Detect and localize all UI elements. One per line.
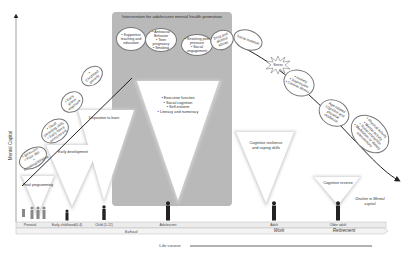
stage-adult: Adult <box>254 223 294 227</box>
x-axis-label: Life course <box>150 243 190 248</box>
y-axis-label: Mental Capital <box>8 118 13 174</box>
adult-figure-icon <box>270 201 278 221</box>
triangle-label-fetal: Fetal programming <box>22 183 54 188</box>
starburst-label: Stress <box>265 63 291 68</box>
triangle-label-early-dev: Early development <box>56 150 90 155</box>
timeline-retirement: Retirement <box>324 228 364 233</box>
child-figure-icon <box>101 205 107 221</box>
stage-early-childhood: Early childhood(0-4) <box>47 223 87 227</box>
prenatal-figures-icon <box>20 205 48 221</box>
toddler-figure-icon <box>64 209 70 221</box>
triangle-label-reserve: Cognitive reserve <box>320 181 356 186</box>
timeline-school: School <box>116 229 146 234</box>
stage-child: Child (5-12) <box>88 223 120 227</box>
timeline-work: Work <box>264 228 294 233</box>
stage-prenatal: Prenatal <box>15 223 45 227</box>
bubble-supportive-teaching: • Supportive teaching and education <box>116 27 146 51</box>
triangle-label-disposition: Disposition to learn <box>88 116 120 121</box>
decline-label: Decline in Mental capital <box>350 197 390 206</box>
adolescent-figure-icon <box>164 201 172 221</box>
bubble-peer-pressure: • Resisting peer pressure • Social engag… <box>181 34 213 56</box>
stage-adolescent: Adolescent <box>148 223 188 227</box>
stage-older-adult: Older adult <box>318 223 358 227</box>
older-adult-figure-icon <box>334 201 342 221</box>
promotion-box-title: Intervention for adolescent mental healt… <box>112 15 232 20</box>
triangle-label-executive: • Executive function • Social cognition … <box>148 96 208 114</box>
bubble-antisocial: • Antisocial Behavior • Teen pregnancy •… <box>145 28 177 52</box>
triangle-label-resilience: Cognitive resilience and coping skills <box>246 141 286 150</box>
